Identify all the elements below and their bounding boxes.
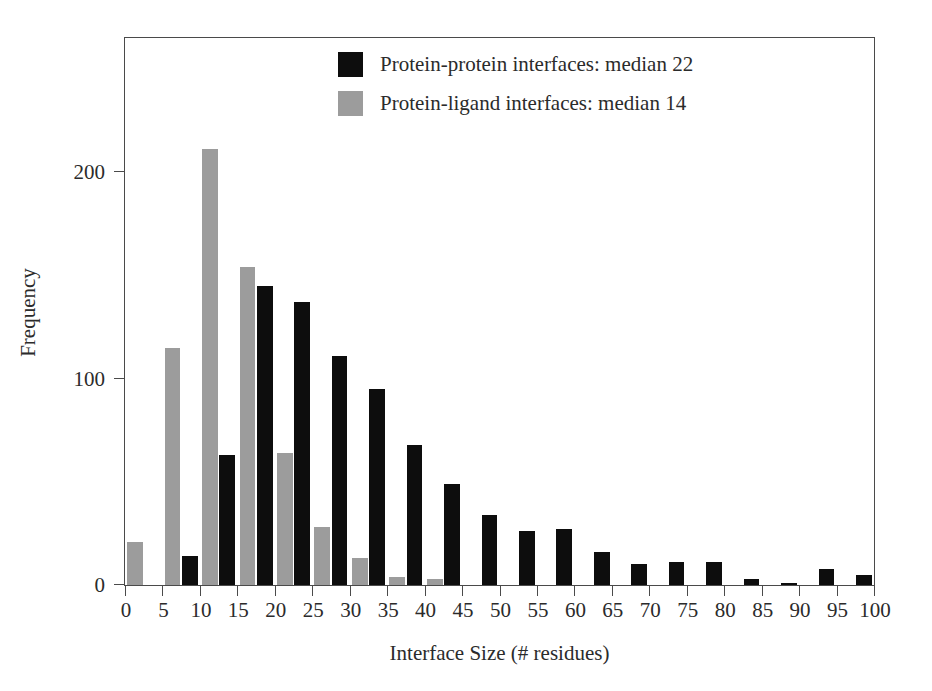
bar-protein-protein-75 bbox=[706, 562, 722, 585]
y-axis-tick-label: 100 bbox=[74, 366, 115, 391]
x-axis-tick: 60 bbox=[574, 585, 575, 596]
bar-protein-ligand-5 bbox=[165, 348, 181, 585]
x-axis-tick-label: 15 bbox=[228, 598, 249, 623]
x-axis-tick: 95 bbox=[837, 585, 838, 596]
chart-legend: Protein-protein interfaces: median 22Pro… bbox=[338, 52, 693, 130]
x-axis-tick-label: 20 bbox=[265, 598, 286, 623]
bar-protein-protein-15 bbox=[257, 286, 273, 585]
x-axis-tick-label: 5 bbox=[158, 598, 169, 623]
x-axis-tick-label: 70 bbox=[640, 598, 661, 623]
y-axis-tick-label: 200 bbox=[74, 160, 115, 185]
x-axis-tick: 90 bbox=[799, 585, 800, 596]
x-axis-tick: 25 bbox=[312, 585, 313, 596]
bar-protein-protein-65 bbox=[631, 564, 647, 585]
bar-protein-protein-25 bbox=[332, 356, 348, 585]
x-axis-tick: 80 bbox=[724, 585, 725, 596]
x-axis-tick-label: 75 bbox=[677, 598, 698, 623]
x-axis-tick: 85 bbox=[762, 585, 763, 596]
x-axis-tick-label: 30 bbox=[340, 598, 361, 623]
bar-protein-ligand-40 bbox=[427, 579, 443, 585]
x-axis-tick-label: 35 bbox=[378, 598, 399, 623]
x-axis-tick-label: 10 bbox=[190, 598, 211, 623]
x-axis-tick-label: 65 bbox=[602, 598, 623, 623]
bar-protein-ligand-0 bbox=[127, 542, 143, 585]
legend-swatch-icon bbox=[338, 91, 363, 116]
bar-protein-protein-80 bbox=[744, 579, 760, 585]
x-axis-tick: 75 bbox=[687, 585, 688, 596]
bar-protein-protein-55 bbox=[556, 529, 572, 585]
legend-swatch-icon bbox=[338, 52, 363, 77]
x-axis-tick-label: 50 bbox=[490, 598, 511, 623]
bar-protein-protein-45 bbox=[482, 515, 498, 585]
x-axis-tick-label: 40 bbox=[415, 598, 436, 623]
x-axis-tick: 50 bbox=[500, 585, 501, 596]
bar-protein-protein-40 bbox=[444, 484, 460, 585]
x-axis-title: Interface Size (# residues) bbox=[124, 641, 875, 666]
x-axis-tick-label: 80 bbox=[715, 598, 736, 623]
bar-protein-ligand-15 bbox=[240, 267, 256, 585]
bar-protein-protein-95 bbox=[856, 575, 872, 585]
bar-protein-protein-50 bbox=[519, 531, 535, 585]
x-axis-tick: 10 bbox=[200, 585, 201, 596]
x-axis-tick-label: 45 bbox=[453, 598, 474, 623]
x-axis-tick: 20 bbox=[275, 585, 276, 596]
legend-item: Protein-ligand interfaces: median 14 bbox=[338, 91, 693, 116]
x-axis-tick-label: 60 bbox=[565, 598, 586, 623]
x-axis-tick: 5 bbox=[162, 585, 163, 596]
x-axis-tick: 70 bbox=[649, 585, 650, 596]
bar-protein-protein-35 bbox=[407, 445, 423, 585]
bar-protein-ligand-20 bbox=[277, 453, 293, 585]
bar-protein-ligand-25 bbox=[314, 527, 330, 585]
bar-protein-protein-85 bbox=[781, 583, 797, 585]
bar-protein-protein-70 bbox=[669, 562, 685, 585]
bar-protein-ligand-10 bbox=[202, 149, 218, 585]
legend-item: Protein-protein interfaces: median 22 bbox=[338, 52, 693, 77]
x-axis-tick: 0 bbox=[125, 585, 126, 596]
bar-protein-protein-90 bbox=[819, 569, 835, 586]
y-axis-tick: 100 bbox=[114, 378, 125, 379]
x-axis-tick-label: 100 bbox=[859, 598, 891, 623]
x-axis-tick: 45 bbox=[462, 585, 463, 596]
y-axis-tick: 0 bbox=[114, 584, 125, 585]
legend-item-label: Protein-ligand interfaces: median 14 bbox=[380, 91, 686, 116]
x-axis-tick-label: 25 bbox=[303, 598, 324, 623]
y-axis-tick-label: 0 bbox=[95, 573, 115, 598]
bar-protein-ligand-30 bbox=[352, 558, 368, 585]
bar-protein-protein-30 bbox=[369, 389, 385, 585]
chart-figure: 0100200051015202530354045505560657075808… bbox=[0, 0, 932, 691]
x-axis-tick-label: 95 bbox=[827, 598, 848, 623]
x-axis-tick-label: 0 bbox=[121, 598, 132, 623]
x-axis-tick: 65 bbox=[612, 585, 613, 596]
x-axis-tick: 30 bbox=[350, 585, 351, 596]
x-axis-tick: 100 bbox=[874, 585, 875, 596]
bar-protein-ligand-35 bbox=[389, 577, 405, 585]
y-axis-title: Frequency bbox=[16, 223, 41, 403]
bar-protein-protein-60 bbox=[594, 552, 610, 585]
x-axis-tick: 15 bbox=[237, 585, 238, 596]
x-axis-tick: 40 bbox=[425, 585, 426, 596]
x-axis-tick-label: 55 bbox=[527, 598, 548, 623]
legend-item-label: Protein-protein interfaces: median 22 bbox=[380, 52, 693, 77]
y-axis-tick: 200 bbox=[114, 171, 125, 172]
bar-protein-protein-20 bbox=[294, 302, 310, 585]
x-axis-tick-label: 90 bbox=[790, 598, 811, 623]
x-axis-tick: 35 bbox=[387, 585, 388, 596]
bar-protein-protein-5 bbox=[182, 556, 198, 585]
x-axis-tick-label: 85 bbox=[752, 598, 773, 623]
bar-protein-protein-10 bbox=[219, 455, 235, 585]
x-axis-tick: 55 bbox=[537, 585, 538, 596]
